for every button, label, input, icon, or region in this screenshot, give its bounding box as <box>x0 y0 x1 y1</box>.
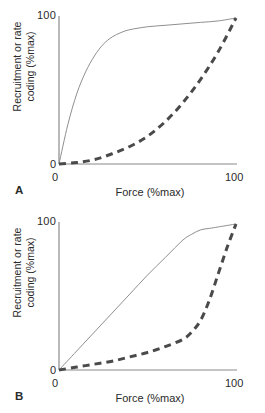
y-axis-label-a: Recruitment or rate coding (%max) <box>11 2 36 132</box>
x-axis-tick-right-a: 100 <box>225 172 243 183</box>
series-line-dashed-b <box>59 224 236 370</box>
series-line-solid-a <box>59 18 236 164</box>
series-line-solid-b <box>59 224 236 370</box>
x-axis-tick-left-b: 0 <box>52 378 58 389</box>
x-axis-label-a: Force (%max) <box>70 186 230 198</box>
plot-svg-a <box>58 16 238 166</box>
x-axis-label-b: Force (%max) <box>70 392 230 404</box>
y-axis-label-b: Recruitment or rate coding (%max) <box>11 208 36 338</box>
y-axis-tick-bottom-a: 0 <box>38 159 56 170</box>
figure-container: 100 0 0 100 Recruitment or rate coding (… <box>0 0 265 413</box>
panel-letter-b: B <box>15 390 23 402</box>
y-axis-tick-bottom-b: 0 <box>38 365 56 376</box>
x-axis-tick-right-b: 100 <box>225 378 243 389</box>
chart-panel-a: 100 0 0 100 Recruitment or rate coding (… <box>0 2 265 202</box>
x-axis-tick-left-a: 0 <box>52 172 58 183</box>
plot-area-a <box>58 16 238 166</box>
plot-svg-b <box>58 222 238 372</box>
chart-panel-b: 100 0 0 100 Recruitment or rate coding (… <box>0 208 265 408</box>
panel-letter-a: A <box>15 184 23 196</box>
plot-area-b <box>58 222 238 372</box>
series-line-dashed-a <box>59 18 236 164</box>
